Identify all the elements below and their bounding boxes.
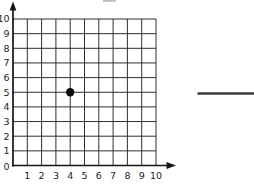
x-tick-label: 4	[67, 170, 73, 181]
y-tick-label: 7	[3, 57, 9, 68]
x-tick-label: 10	[150, 170, 162, 181]
y-tick-label: 4	[3, 101, 9, 112]
worksheet-figure: 01234567891012345678910	[0, 0, 254, 189]
y-tick-label: 8	[3, 43, 9, 54]
x-tick-label: 2	[39, 170, 45, 181]
coordinate-grid-chart: 01234567891012345678910	[0, 0, 254, 189]
y-tick-label: 5	[3, 87, 9, 98]
x-tick-label: 8	[124, 170, 130, 181]
y-tick-label: 10	[0, 13, 10, 24]
x-tick-label: 6	[96, 170, 102, 181]
x-tick-label: 1	[24, 170, 30, 181]
y-tick-label: 1	[3, 145, 9, 156]
y-tick-label: 2	[3, 131, 9, 142]
cropped-text-fragment	[103, 0, 116, 2]
y-tick-label: 3	[3, 116, 9, 127]
x-tick-label: 5	[81, 170, 87, 181]
plotted-point	[66, 88, 74, 96]
x-tick-label: 3	[53, 170, 59, 181]
x-tick-label: 7	[110, 170, 116, 181]
x-tick-label: 9	[139, 170, 145, 181]
y-tick-label: 0	[3, 161, 9, 172]
y-tick-label: 6	[3, 72, 9, 83]
y-tick-label: 9	[3, 28, 9, 39]
